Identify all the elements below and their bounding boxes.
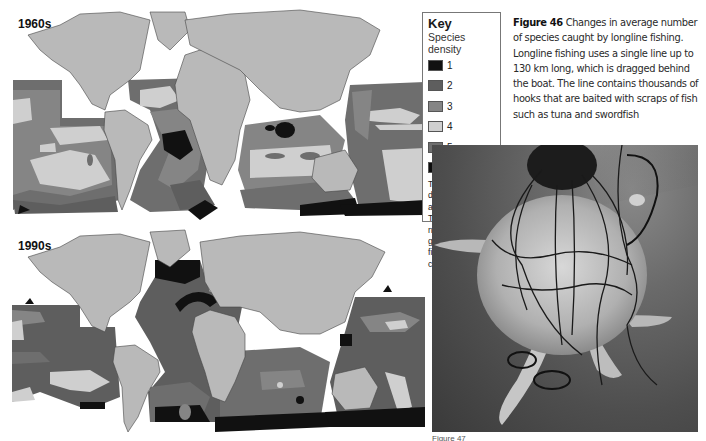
turtle-photo xyxy=(432,145,698,432)
key-value: 3 xyxy=(447,101,453,112)
greenland xyxy=(150,12,190,50)
figure-46-caption: Figure 46 Changes in average number of s… xyxy=(513,15,703,122)
world-map-1960s xyxy=(0,0,425,222)
key-item-2: 2 xyxy=(428,76,500,97)
map-label-1960s: 1960s xyxy=(18,17,51,31)
world-map-1990s xyxy=(0,222,425,441)
figure-47-caption-partial: Figure 47 xyxy=(432,434,466,441)
key-value: 4 xyxy=(447,121,453,132)
key-item-4: 4 xyxy=(428,117,500,138)
key-swatch-1 xyxy=(428,60,443,71)
key-value: 2 xyxy=(447,80,453,91)
key-swatch-3 xyxy=(428,101,443,112)
key-value: 1 xyxy=(447,60,453,71)
key-swatch-4 xyxy=(428,121,443,132)
key-title: Key xyxy=(428,17,500,31)
map-1990s: 1990s xyxy=(0,222,425,441)
turtle-entangled-illustration xyxy=(432,145,698,432)
figure-number: Figure 46 xyxy=(513,17,563,28)
map-1960s: 1960s xyxy=(0,0,425,222)
figure-caption-text: Changes in average number of species cau… xyxy=(513,17,698,120)
key-swatch-2 xyxy=(428,80,443,91)
key-item-1: 1 xyxy=(428,55,500,76)
map-label-1990s: 1990s xyxy=(18,239,51,253)
key-subtitle: Species density xyxy=(428,31,500,55)
key-item-3: 3 xyxy=(428,96,500,117)
